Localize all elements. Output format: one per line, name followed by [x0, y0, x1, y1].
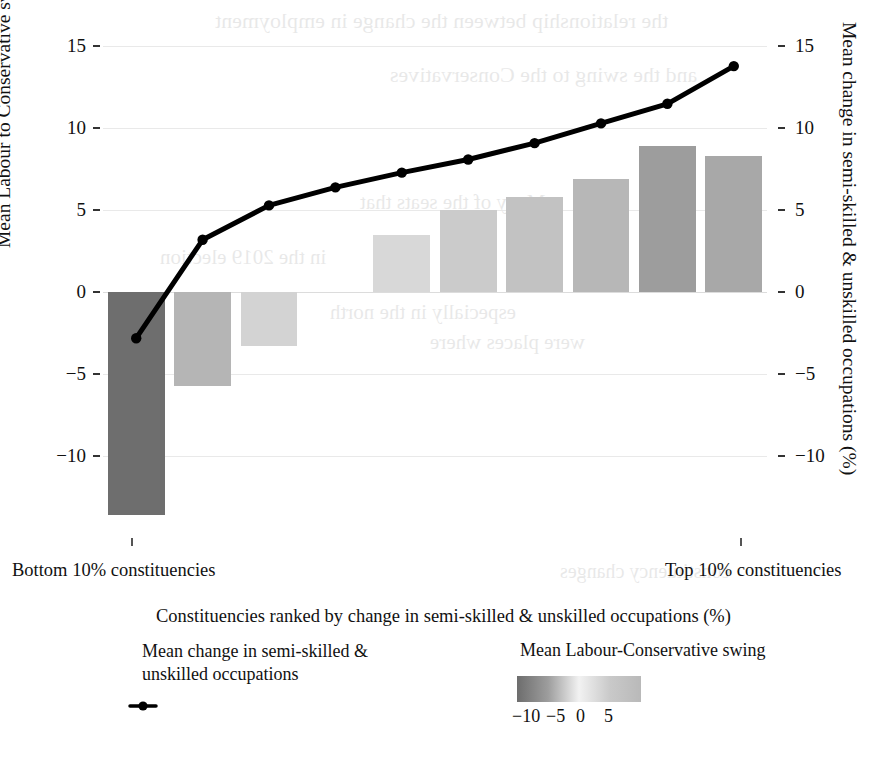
- colorbar-tick--5: −5: [546, 706, 565, 727]
- line-marker: [264, 200, 274, 210]
- y-tick-right-mark--5: [778, 373, 785, 375]
- chart-root: the relationship between the change in e…: [0, 0, 887, 757]
- y-tick-right-label--5: −5: [795, 364, 815, 383]
- line-marker: [662, 99, 672, 109]
- x-axis-left-label: Bottom 10% constituencies: [12, 560, 215, 581]
- y-tick-left-mark-15: [93, 45, 100, 47]
- plot-area: [103, 30, 767, 530]
- legend-line-key-icon: [128, 700, 158, 712]
- legend-line-label-row2: unskilled occupations: [142, 663, 442, 686]
- y-tick-left-label--10: −10: [30, 446, 86, 465]
- colorbar-tick-5: 5: [604, 706, 613, 727]
- y-tick-right-label-15: 15: [795, 36, 814, 55]
- y-tick-left-mark-5: [93, 209, 100, 211]
- y-tick-right-label-5: 5: [795, 200, 805, 219]
- line-marker: [397, 167, 407, 177]
- legend-line-label: Mean change in semi-skilled & unskilled …: [142, 640, 442, 687]
- y-axis-left-title: Mean Labour to Conservative swing: [0, 0, 15, 248]
- line-marker: [729, 61, 739, 71]
- y-tick-left-label-5: 5: [30, 200, 86, 219]
- y-tick-left-label-10: 10: [30, 118, 86, 137]
- y-tick-right-mark-0: [778, 291, 785, 293]
- line-marker: [529, 138, 539, 148]
- y-tick-right-mark-15: [778, 45, 785, 47]
- legend-colorbar-title: Mean Labour-Conservative swing: [520, 640, 766, 661]
- y-tick-left-label-0: 0: [30, 282, 86, 301]
- colorbar-tick--10: −10: [512, 706, 540, 727]
- line-marker: [131, 333, 141, 343]
- x-tick-left: [131, 538, 133, 546]
- y-tick-right-mark-10: [778, 127, 785, 129]
- line-marker: [596, 118, 606, 128]
- y-tick-left-mark--5: [93, 373, 100, 375]
- line-marker: [463, 154, 473, 164]
- y-tick-left-mark-0: [93, 291, 100, 293]
- line-series: [103, 30, 767, 530]
- x-tick-right: [740, 538, 742, 546]
- y-tick-right-label--10: −10: [795, 446, 825, 465]
- legend-colorbar-gradient: [517, 676, 641, 702]
- colorbar-tick-0: 0: [576, 706, 585, 727]
- line-marker: [330, 182, 340, 192]
- line-path: [136, 66, 734, 338]
- y-tick-left-mark-10: [93, 127, 100, 129]
- legend-line-label-row1: Mean change in semi-skilled &: [142, 640, 442, 663]
- y-axis-right-title: Mean change in semi-skilled & unskilled …: [838, 22, 860, 542]
- y-tick-right-mark--10: [778, 455, 785, 457]
- y-tick-right-label-0: 0: [795, 282, 805, 301]
- line-marker: [197, 235, 207, 245]
- y-tick-right-mark-5: [778, 209, 785, 211]
- y-tick-left-mark--10: [93, 455, 100, 457]
- y-tick-left-label-15: 15: [30, 36, 86, 55]
- y-tick-left-label--5: −5: [30, 364, 86, 383]
- x-axis-right-label: Top 10% constituencies: [665, 560, 841, 581]
- x-axis-title: Constituencies ranked by change in semi-…: [0, 606, 887, 627]
- line-markers: [131, 61, 739, 344]
- y-tick-right-label-10: 10: [795, 118, 814, 137]
